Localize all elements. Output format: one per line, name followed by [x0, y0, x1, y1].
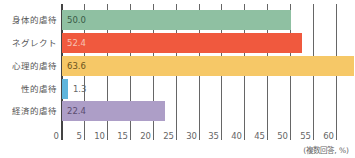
bar-value-label: 22.4 — [67, 101, 86, 121]
x-tick-label: 5 — [62, 131, 82, 141]
category-label: 身体的虐待 — [12, 10, 57, 30]
bar-value-label: 50.0 — [67, 10, 86, 30]
x-tick-label: 40 — [222, 131, 242, 141]
x-tick-label: 25 — [154, 131, 174, 141]
x-tick-label: 20 — [131, 131, 151, 141]
bar: 50.0 — [62, 10, 291, 30]
x-tick-label: 35 — [199, 131, 219, 141]
bar: 22.4 — [62, 101, 165, 121]
x-tick-label: 15 — [108, 131, 128, 141]
bar: 1.3 — [62, 79, 68, 99]
category-label: 心理的虐待 — [12, 56, 57, 76]
bar-value-label: 52.4 — [67, 33, 86, 53]
x-tick-label: 30 — [177, 131, 197, 141]
category-label: 性的虐待 — [21, 79, 57, 99]
bar-chart: 身体的虐待50.0ネグレクト52.4心理的虐待63.6性的虐待1.3経済的虐待2… — [0, 0, 355, 158]
category-label: 経済的虐待 — [12, 101, 57, 121]
x-tick-label: 60 — [314, 131, 334, 141]
x-tick-label: 10 — [85, 131, 105, 141]
bar-value-label: 63.6 — [67, 56, 86, 76]
bar: 52.4 — [62, 33, 302, 53]
bar-value-label: 1.3 — [73, 79, 87, 99]
x-tick-label: 50 — [268, 131, 288, 141]
category-label: ネグレクト — [12, 33, 57, 53]
chart-note: (複数回答, %) — [303, 144, 349, 155]
x-tick-label: 45 — [245, 131, 265, 141]
x-tick-label: 0 — [39, 131, 59, 141]
bar: 63.6 — [62, 56, 354, 76]
x-tick-label: 55 — [291, 131, 311, 141]
